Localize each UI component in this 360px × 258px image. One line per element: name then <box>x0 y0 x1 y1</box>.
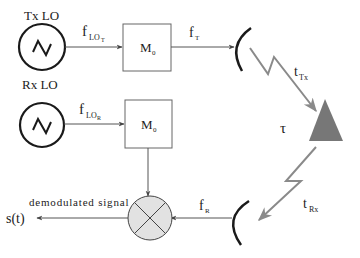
svg-text:t: t <box>294 64 298 79</box>
svg-text:f: f <box>79 101 84 117</box>
svg-text:T: T <box>195 34 200 42</box>
svg-text:f: f <box>82 23 87 39</box>
f-lo-r-label: f LO R <box>79 101 101 121</box>
svg-text:f: f <box>189 25 194 40</box>
rx-lo-label: Rx LO <box>22 77 58 92</box>
t-rx-label: t Rx <box>303 196 318 214</box>
svg-text:f: f <box>199 198 204 213</box>
tau-label: τ <box>280 120 286 136</box>
f-r-label: f R <box>199 198 210 215</box>
demodulated-signal-label: demodulated signal <box>29 196 129 208</box>
svg-text:0: 0 <box>152 49 156 57</box>
svg-text:R: R <box>97 115 101 121</box>
rx-oscillator-icon <box>20 103 64 147</box>
svg-text:0: 0 <box>153 126 157 134</box>
t-tx-label: t Tx <box>294 64 308 82</box>
svg-text:Tx: Tx <box>299 73 308 82</box>
rx-antenna-icon <box>233 201 249 245</box>
svg-text:LO: LO <box>89 33 100 42</box>
svg-text:Rx: Rx <box>309 205 318 214</box>
tx-oscillator-icon <box>19 24 65 70</box>
svg-text:R: R <box>205 207 210 215</box>
rx-beam-arrow <box>259 147 316 220</box>
output-signal-label: s(t) <box>6 211 25 227</box>
block-diagram: Tx LO f LO T M 0 f T t Tx τ t Rx f R <box>0 0 360 258</box>
svg-text:M: M <box>141 117 153 132</box>
f-lo-t-label: f LO T <box>82 23 105 43</box>
tx-antenna-icon <box>236 28 251 71</box>
target-icon <box>309 99 343 141</box>
svg-text:LO: LO <box>86 111 97 120</box>
tx-lo-label: Tx LO <box>24 8 59 23</box>
svg-text:M: M <box>140 40 152 55</box>
svg-text:T: T <box>101 37 105 43</box>
f-t-label: f T <box>189 25 200 42</box>
svg-text:t: t <box>303 196 307 211</box>
mixer-icon <box>128 196 172 240</box>
